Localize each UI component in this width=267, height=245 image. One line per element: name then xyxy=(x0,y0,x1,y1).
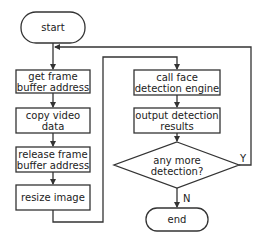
output-detection-results-box: output detection results xyxy=(134,108,220,133)
resize-image-box: resize image xyxy=(16,185,90,210)
output-detection-line1: output detection xyxy=(135,110,218,121)
start-label: start xyxy=(41,22,64,33)
release-frame-line1: release frame xyxy=(18,149,87,160)
end-terminal: end xyxy=(146,208,208,231)
release-frame-buffer-address-box: release frame buffer address xyxy=(16,147,90,172)
yes-label: Y xyxy=(239,153,247,164)
call-face-line2: detection engine xyxy=(135,83,220,94)
output-detection-line2: results xyxy=(160,121,194,132)
flowchart: start get frame buffer address copy vide… xyxy=(0,0,267,245)
get-frame-line1: get frame xyxy=(28,71,77,82)
call-face-line1: call face xyxy=(156,72,198,83)
get-frame-line2: buffer address xyxy=(17,82,89,93)
resize-image-label: resize image xyxy=(21,192,85,203)
any-more-detection-decision: any more detection? xyxy=(114,142,239,188)
release-frame-line2: buffer address xyxy=(17,160,89,171)
no-label: N xyxy=(183,193,190,204)
start-terminal: start xyxy=(21,12,85,43)
copy-video-line2: data xyxy=(42,121,65,132)
get-frame-buffer-address-box: get frame buffer address xyxy=(16,70,90,93)
call-face-detection-engine-box: call face detection engine xyxy=(134,70,220,95)
decision-line2: detection? xyxy=(151,166,204,177)
copy-video-data-box: copy video data xyxy=(16,108,90,133)
copy-video-line1: copy video xyxy=(26,110,80,121)
decision-line1: any more xyxy=(153,155,200,166)
end-label: end xyxy=(168,214,187,225)
